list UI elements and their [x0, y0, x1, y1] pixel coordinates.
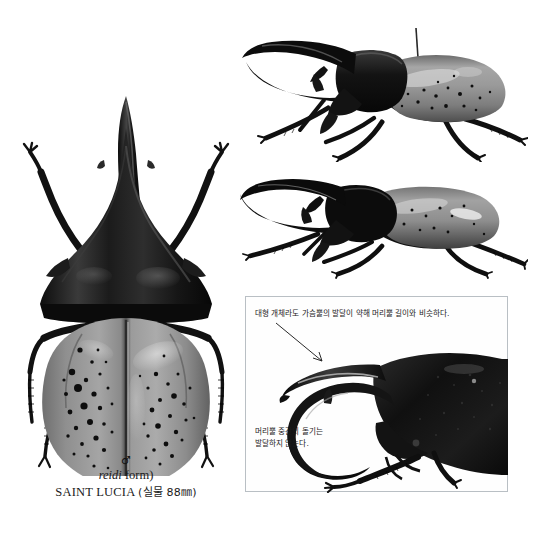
- hercules-beetle-lateral-view-upper: [232, 22, 528, 162]
- form-name-italic: reidi: [99, 468, 122, 482]
- annotation-head-horn-line2: 발달하지 않는다.: [255, 438, 350, 450]
- specimen-size-note: (실물 88㎜): [138, 486, 197, 499]
- form-name-roman: form): [122, 468, 154, 482]
- hercules-beetle-head-thorax-closeup: [268, 325, 508, 493]
- hercules-beetle-lateral-view-lower: [232, 172, 528, 280]
- annotation-head-horn-line1: 머리뿔 중간의 돌기는: [255, 426, 350, 438]
- locality-label: SAINT LUCIA (실물 88㎜): [8, 484, 244, 501]
- annotation-head-horn-tubercle: 머리뿔 중간의 돌기는 발달하지 않는다.: [255, 426, 350, 449]
- detail-inset-box: 대형 개체라도 가슴뿔의 발달이 약해 머리뿔 길이와 비슷하다. 머리뿔 중간…: [245, 296, 508, 492]
- dorsal-specimen-caption: ♂ reidi form) SAINT LUCIA (실물 88㎜): [8, 455, 244, 501]
- insect-pin: [416, 28, 418, 58]
- locality-country: SAINT LUCIA: [55, 485, 134, 499]
- field-guide-page: ♂ reidi form) SAINT LUCIA (실물 88㎜): [0, 0, 533, 534]
- male-symbol: ♂: [8, 455, 244, 467]
- hercules-beetle-dorsal-view: [8, 88, 244, 476]
- annotation-thoracic-horn: 대형 개체라도 가슴뿔의 발달이 약해 머리뿔 길이와 비슷하다.: [255, 308, 449, 320]
- form-name-label: reidi form): [8, 468, 244, 483]
